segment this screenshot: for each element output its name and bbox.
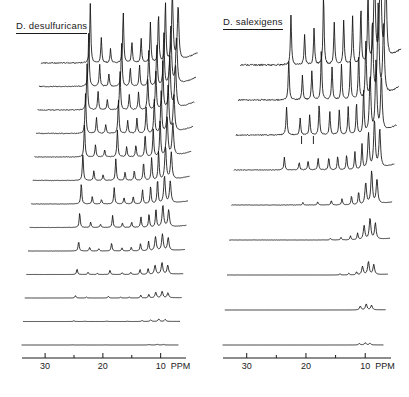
x-tick-label: 20 xyxy=(98,361,108,371)
x-tick-label: 10 xyxy=(360,361,370,371)
spectrum-trace xyxy=(22,344,178,345)
spectrum-trace xyxy=(35,117,191,157)
x-tick-label: 10 xyxy=(156,361,166,371)
spectrum-trace xyxy=(27,263,183,275)
panel-d-salexigens: D. salexigens 302010PPM xyxy=(205,0,409,397)
trace-group xyxy=(22,0,197,345)
spectra-plot-left xyxy=(0,0,205,397)
spectrum-trace xyxy=(25,291,181,298)
x-axis xyxy=(22,353,186,358)
nmr-figure: D. desulfuricans 302010PPM D. salexigens… xyxy=(0,0,409,397)
x-tick-label: 30 xyxy=(40,361,50,371)
peak-marker-group xyxy=(302,136,314,144)
spectrum-trace xyxy=(225,304,385,310)
x-axis xyxy=(223,353,391,358)
x-tick-label: 20 xyxy=(301,361,311,371)
trace-group xyxy=(223,0,401,345)
x-axis-unit-label: PPM xyxy=(375,361,395,371)
x-tick-label: 30 xyxy=(242,361,252,371)
panel-d-desulfuricans: D. desulfuricans 302010PPM xyxy=(0,0,205,397)
x-axis-unit-label: PPM xyxy=(171,361,191,371)
spectrum-trace xyxy=(30,206,186,228)
spectrum-trace xyxy=(40,26,196,87)
panel-title-left: D. desulfuricans xyxy=(16,20,87,34)
spectrum-trace xyxy=(241,0,401,66)
spectrum-trace xyxy=(38,55,194,110)
spectrum-trace xyxy=(234,121,394,171)
spectrum-trace xyxy=(24,319,180,322)
spectrum-trace xyxy=(227,262,387,276)
spectrum-trace xyxy=(230,218,390,240)
spectrum-trace xyxy=(223,343,383,345)
spectrum-trace xyxy=(28,234,184,251)
spectrum-trace xyxy=(33,147,189,181)
spectra-plot-right xyxy=(205,0,409,397)
panel-title-right: D. salexigens xyxy=(223,16,283,30)
spectrum-trace xyxy=(232,171,392,205)
